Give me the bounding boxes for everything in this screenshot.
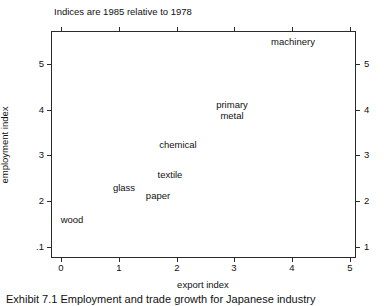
x-tick-mark-top (119, 27, 120, 31)
y-tick-mark-left (47, 64, 51, 65)
y-tick-label-right: 2 (364, 196, 369, 206)
y-tick-mark-right (356, 155, 360, 156)
y-tick-mark-left (47, 110, 51, 111)
data-point-label: textile (158, 170, 183, 181)
plot-area (51, 31, 356, 258)
y-axis-title: employment index (0, 106, 10, 183)
y-tick-label-left: 3 (27, 150, 44, 160)
data-point-label: glass (113, 183, 135, 194)
data-point-label: machinery (271, 37, 315, 48)
y-tick-label-left: 4 (27, 105, 44, 115)
y-tick-mark-right (356, 110, 360, 111)
x-tick-mark-top (234, 27, 235, 31)
chart-figure: Indices are 1985 relative to 1978 012345… (0, 0, 387, 306)
data-point-label: wood (61, 215, 84, 226)
x-tick-mark-top (61, 27, 62, 31)
data-point-label: paper (146, 191, 170, 202)
y-tick-label-right: 4 (364, 105, 369, 115)
x-tick-mark-top (350, 27, 351, 31)
x-tick-label: 1 (116, 263, 121, 273)
x-axis-title: export index (177, 279, 229, 290)
data-point-label: primary metal (216, 100, 248, 121)
chart-title: Indices are 1985 relative to 1978 (54, 6, 192, 17)
x-tick-label: 2 (174, 263, 179, 273)
y-tick-mark-left (47, 247, 51, 248)
x-tick-mark-top (177, 27, 178, 31)
y-tick-mark-right (356, 64, 360, 65)
x-tick-label: 3 (231, 263, 236, 273)
y-tick-label-left: 2 (27, 196, 44, 206)
y-tick-label-left: .1 (27, 242, 44, 252)
y-tick-mark-left (47, 155, 51, 156)
figure-caption: Exhibit 7.1 Employment and trade growth … (6, 293, 315, 306)
y-tick-mark-right (356, 247, 360, 248)
x-tick-mark-top (292, 27, 293, 31)
y-tick-mark-left (47, 201, 51, 202)
x-tick-label: 4 (289, 263, 294, 273)
y-tick-mark-right (356, 201, 360, 202)
y-tick-label-right: 3 (364, 150, 369, 160)
y-tick-label-right: 5 (364, 59, 369, 69)
x-tick-label: 0 (58, 263, 63, 273)
x-tick-label: 5 (347, 263, 352, 273)
data-point-label: chemical (159, 140, 197, 151)
y-tick-label-left: 5 (27, 59, 44, 69)
y-tick-label-right: 1 (364, 242, 369, 252)
